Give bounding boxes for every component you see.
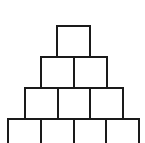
pyramid-square-r4c3: [74, 119, 106, 143]
pyramid-square-r3c2: [58, 88, 90, 119]
pyramid-square-r4c4: [106, 119, 139, 143]
pyramid-square-r1c1: [57, 26, 90, 57]
pyramid-square-r3c3: [90, 88, 123, 119]
pyramid-square-r3c1: [25, 88, 58, 119]
pyramid-square-r4c2: [41, 119, 74, 143]
pyramid-square-r2c1: [41, 57, 74, 88]
square-pyramid-figure: Square Pyramid Stack: [0, 0, 145, 143]
figure-canvas: Square Pyramid Stack: [0, 0, 145, 143]
pyramid-square-r4c1: [8, 119, 41, 143]
pyramid-square-r2c2: [74, 57, 107, 88]
